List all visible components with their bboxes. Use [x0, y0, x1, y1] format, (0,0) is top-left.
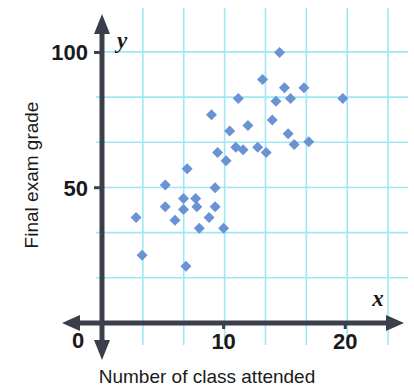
y-tick-label: 50 — [64, 176, 88, 201]
y-tick-label: 100 — [51, 40, 88, 65]
x-axis-title: Number of class attended — [99, 366, 316, 387]
chart-canvas: 1020 50100 0 y x Number of class attende… — [0, 0, 414, 391]
y-axis-title: Final exam grade — [21, 102, 42, 249]
origin-label: 0 — [72, 328, 84, 353]
x-tick-label: 10 — [211, 329, 235, 354]
x-tick-label: 20 — [333, 329, 357, 354]
y-axis-variable-label: y — [114, 28, 128, 53]
x-axis-variable-label: x — [371, 286, 384, 311]
scatter-plot-figure: 1020 50100 0 y x Number of class attende… — [0, 0, 414, 391]
